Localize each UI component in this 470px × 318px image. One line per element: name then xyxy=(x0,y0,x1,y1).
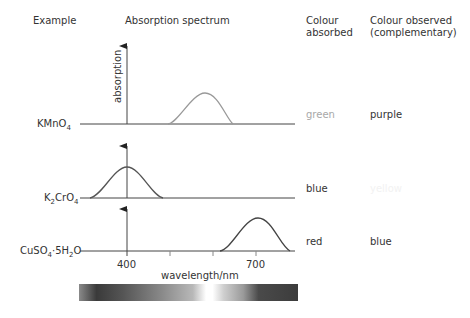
x-axis-label: wavelength/nm xyxy=(161,270,239,281)
observed-cuso4: blue xyxy=(370,236,392,247)
compound-kmno4: KMnO4 xyxy=(37,118,71,132)
observed-kmno4: purple xyxy=(370,109,402,120)
observed-k2cro4: yellow xyxy=(370,183,402,194)
absorbed-kmno4: green xyxy=(306,109,335,120)
absorbed-k2cro4: blue xyxy=(306,183,328,194)
visible-spectrum-bar xyxy=(79,284,298,301)
absorbed-cuso4: red xyxy=(306,236,322,247)
y-axis-label: absorption xyxy=(112,50,123,103)
x-tick-700: 700 xyxy=(246,259,265,270)
compound-cuso4-5h2o: CuSO4·5H2O xyxy=(20,245,81,259)
compound-k2cro4: K2CrO4 xyxy=(44,192,78,206)
x-tick-400: 400 xyxy=(117,259,136,270)
